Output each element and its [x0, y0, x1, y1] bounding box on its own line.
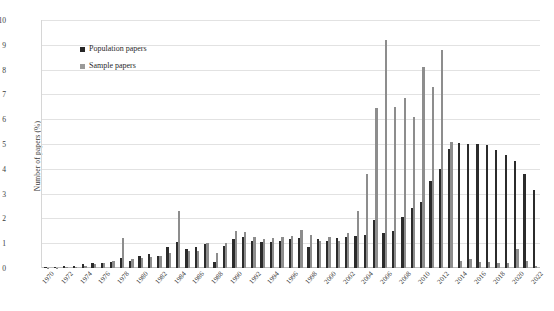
bar-sample	[206, 243, 208, 268]
bar-sample	[422, 67, 424, 268]
bar-group	[277, 20, 286, 268]
bar-sample	[272, 238, 274, 268]
bar-sample	[497, 263, 499, 268]
bar-population	[458, 143, 460, 268]
bar-group	[483, 20, 492, 268]
bar-sample	[516, 249, 518, 268]
bar-sample	[281, 237, 283, 268]
bar-group	[465, 20, 474, 268]
x-tick-label: 1978	[116, 270, 131, 286]
y-tick-label: 5	[0, 140, 6, 149]
bar-group	[173, 20, 182, 268]
y-tick-label: 4	[0, 164, 6, 173]
bar-group	[70, 20, 79, 268]
bar-sample	[141, 258, 143, 268]
bar-sample	[75, 267, 77, 268]
bar-sample	[413, 117, 415, 268]
x-tick-label: 1994	[266, 270, 281, 286]
bar-sample	[244, 232, 246, 268]
bar-sample	[56, 268, 58, 269]
x-tick-label: 1980	[135, 270, 150, 286]
bar-sample	[291, 236, 293, 268]
bar-group	[202, 20, 211, 268]
bar-sample	[526, 261, 528, 268]
chart-legend: Population papers Sample papers	[80, 45, 147, 79]
bar-sample	[535, 266, 537, 268]
legend-item-sample: Sample papers	[80, 62, 147, 70]
bar-group	[361, 20, 370, 268]
bar-sample	[319, 241, 321, 268]
x-tick-label: 2006	[379, 270, 394, 286]
bar-sample	[357, 211, 359, 268]
bar-sample	[131, 259, 133, 268]
x-tick-label: 1974	[78, 270, 93, 286]
x-tick-label: 2016	[473, 270, 488, 286]
bar-population	[523, 174, 525, 268]
bar-group	[239, 20, 248, 268]
bar-sample	[263, 239, 265, 268]
bar-group	[418, 20, 427, 268]
bar-population	[495, 150, 497, 268]
bar-group	[446, 20, 455, 268]
bar-group	[427, 20, 436, 268]
bar-group	[183, 20, 192, 268]
x-tick-label: 2014	[454, 270, 469, 286]
bar-sample	[469, 259, 471, 268]
bar-sample	[225, 243, 227, 268]
bar-sample	[169, 253, 171, 268]
bar-group	[155, 20, 164, 268]
bar-sample	[197, 251, 199, 268]
x-tick-label: 2000	[322, 270, 337, 286]
bar-group	[371, 20, 380, 268]
x-tick-label: 1986	[191, 270, 206, 286]
bar-group	[352, 20, 361, 268]
bar-group	[230, 20, 239, 268]
bar-sample	[338, 241, 340, 268]
bar-sample	[394, 107, 396, 268]
bar-group	[296, 20, 305, 268]
bar-group	[324, 20, 333, 268]
bar-population	[505, 155, 507, 268]
x-tick-label: 2012	[435, 270, 450, 286]
x-tick-label: 1976	[97, 270, 112, 286]
bar-group	[502, 20, 511, 268]
bar-group	[389, 20, 398, 268]
legend-item-population: Population papers	[80, 45, 147, 53]
x-tick-label: 2022	[529, 270, 544, 286]
bar-sample	[347, 233, 349, 268]
bar-sample	[385, 40, 387, 268]
bar-sample	[84, 266, 86, 268]
x-tick-label: 1972	[59, 270, 74, 286]
bar-sample	[47, 268, 49, 269]
x-tick-label: 2008	[398, 270, 413, 286]
bar-population	[533, 190, 535, 268]
legend-label: Sample papers	[89, 62, 136, 70]
x-tick-label: 1990	[229, 270, 244, 286]
y-tick-label: 10	[0, 16, 6, 25]
x-tick-label: 2010	[416, 270, 431, 286]
bar-population	[476, 144, 478, 268]
x-tick-label: 2018	[492, 270, 507, 286]
x-tick-label: 1996	[285, 270, 300, 286]
bar-group	[42, 20, 51, 268]
x-axis-tick-labels: 1970197219741976197819801982198419861988…	[42, 270, 540, 310]
bar-sample	[441, 50, 443, 268]
bar-sample	[235, 231, 237, 268]
bar-group	[493, 20, 502, 268]
x-tick-label: 2020	[510, 270, 525, 286]
bar-sample	[122, 238, 124, 268]
y-tick-label: 3	[0, 189, 6, 198]
bar-sample	[404, 98, 406, 268]
bar-sample	[328, 237, 330, 268]
bar-group	[455, 20, 464, 268]
bar-group	[192, 20, 201, 268]
bar-sample	[488, 262, 490, 268]
y-tick-label: 7	[0, 90, 6, 99]
bar-sample	[94, 264, 96, 268]
bar-group	[399, 20, 408, 268]
legend-swatch-square-icon	[80, 64, 85, 69]
bar-group	[305, 20, 314, 268]
bar-group	[267, 20, 276, 268]
legend-label: Population papers	[89, 45, 147, 53]
bar-population	[467, 144, 469, 268]
